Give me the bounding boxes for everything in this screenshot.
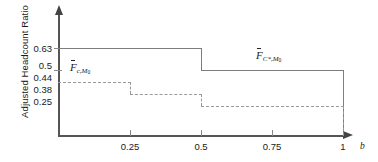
x-tick-label-05: 0.5 <box>194 141 207 152</box>
solid-step-segment-2 <box>201 70 344 71</box>
series-label-f-cstar-m0-symbol: F <box>256 49 263 61</box>
y-tick-label-025: 0.25 <box>34 96 53 107</box>
x-axis-title: b <box>360 141 365 151</box>
x-tick-mark-075 <box>272 130 273 136</box>
dashed-drop-segment-1 <box>130 82 131 94</box>
series-label-f-cstar-m0-sub: C*,M <box>263 55 279 63</box>
dashed-step-segment-1 <box>58 82 131 83</box>
dashed-step-segment-3 <box>201 106 344 107</box>
solid-drop-segment-1 <box>201 48 202 70</box>
x-tick-mark-05 <box>201 130 202 136</box>
dashed-drop-segment-2 <box>201 94 202 106</box>
x-tick-label-025: 0.25 <box>121 141 140 152</box>
y-axis-arrow-icon <box>55 5 63 15</box>
dashed-step-segment-2 <box>130 94 202 95</box>
series-label-f-cstar-m0: FC*,M0 <box>256 49 281 63</box>
series-label-f-c-m0-subsub: 0 <box>87 69 90 75</box>
y-tick-label-05: 0.5 <box>39 60 52 71</box>
x-tick-mark-025 <box>130 130 131 136</box>
series-label-f-cstar-m0-subsub: 0 <box>278 57 281 63</box>
series-label-f-c-m0-sub: c,M <box>77 67 88 75</box>
y-tick-label-063: 0.63 <box>34 43 53 54</box>
x-axis-arrow-icon <box>343 131 353 139</box>
y-tick-mark-2 <box>54 70 62 71</box>
chart-figure: Adjusted Headcount Ratio 0.63 0.5 0.44 0… <box>0 0 378 162</box>
x-tick-label-1: 1 <box>340 141 345 152</box>
solid-step-segment-1 <box>58 48 202 49</box>
y-axis-title: Adjusted Headcount Ratio <box>19 0 30 132</box>
series-label-f-c-m0-symbol: F <box>70 61 77 73</box>
y-axis-line <box>58 14 60 136</box>
series-label-f-c-m0: Fc,M0 <box>70 61 90 75</box>
y-tick-label-038: 0.38 <box>34 84 53 95</box>
dashed-terminal-drop <box>343 106 344 136</box>
x-tick-label-075: 0.75 <box>263 141 282 152</box>
y-tick-label-044: 0.44 <box>34 72 53 83</box>
